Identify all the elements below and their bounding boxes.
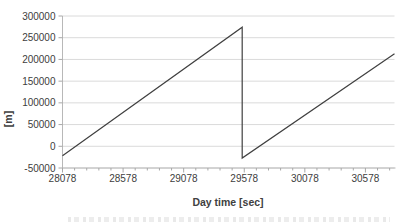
y-tick-label: 0 [50,141,56,152]
y-tick-label: 200000 [22,54,56,65]
x-tick-label: 28578 [109,173,137,184]
axes [63,16,396,168]
y-tick-label: 100000 [22,97,56,108]
x-axis-title: Day time [sec] [192,196,263,208]
y-tick-label: 150000 [22,76,56,87]
y-tick-label: 50000 [28,119,56,130]
x-tick-label: 29578 [230,173,258,184]
axis-ticks [59,16,390,173]
tick-labels: -500000500001000001500002000002500003000… [22,11,380,185]
x-tick-label: 28078 [49,173,77,184]
x-tick-label: 29078 [170,173,198,184]
x-tick-label: 30578 [352,173,380,184]
y-tick-label: -50000 [24,163,56,174]
y-tick-label: 250000 [22,32,56,43]
gridlines [63,16,395,168]
y-axis-title: [m] [2,111,14,127]
data-series-line [63,27,395,158]
chart-figure: -500000500001000001500002000002500003000… [0,0,402,222]
data-series [63,27,395,158]
line-chart-canvas: -500000500001000001500002000002500003000… [0,0,402,222]
x-tick-label: 30078 [291,173,319,184]
cropped-caption-fragment [68,217,390,222]
y-tick-label: 300000 [22,11,56,22]
